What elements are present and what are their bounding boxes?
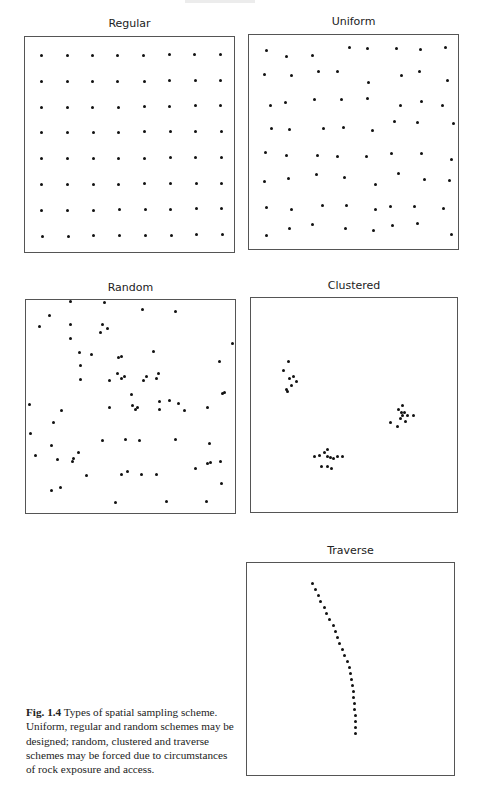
sample-point [174,438,177,441]
sample-point [69,337,72,340]
sample-point [372,229,375,232]
sample-point [311,54,314,57]
figure-caption: Fig. 1.4 Types of spatial sampling schem… [26,705,236,776]
sample-point [71,460,74,463]
sample-point [285,154,288,157]
sample-point [403,411,406,414]
sample-point [316,154,319,157]
sample-point [354,732,357,735]
sample-point [117,131,120,134]
sample-point [290,384,293,387]
sample-point [66,106,69,109]
sample-point [194,467,197,470]
panel-title-traverse: Traverse [246,544,455,557]
sample-point [155,473,158,476]
sample-point [77,451,80,454]
sample-point [319,600,322,603]
sample-point [345,204,348,207]
sample-point [282,369,285,372]
sample-point [418,70,421,73]
sample-point [143,182,146,185]
panel-random [25,299,236,514]
sample-point [183,409,186,412]
sample-point [406,414,409,417]
sample-point [317,594,320,597]
page-header-fragment [185,0,255,3]
sample-point [41,235,44,238]
sample-point [143,157,146,160]
panel-clustered [250,297,458,513]
sample-point [193,53,196,56]
sample-point [66,131,69,134]
sample-point [269,104,272,107]
sample-point [441,104,444,107]
sample-point [141,308,144,311]
sample-point [334,630,337,633]
sample-point [50,444,53,447]
sample-point [219,79,222,82]
sample-point [40,131,43,134]
caption-label: Fig. 1.4 [26,706,61,718]
sample-point [219,104,222,107]
sample-point [450,158,453,161]
sample-point [353,708,356,711]
sample-point [220,156,223,159]
sample-point [195,233,198,236]
sample-point [332,457,335,460]
sample-point [315,173,318,176]
sample-point [79,364,82,367]
sample-point [66,209,69,212]
sample-point [401,414,404,417]
sample-point [287,177,290,180]
sample-point [446,79,449,82]
sample-point [120,473,123,476]
sample-point [106,327,109,330]
sample-point [399,104,402,107]
sample-point [367,81,370,84]
sample-point [168,105,171,108]
sample-point [287,360,290,363]
sample-point [348,666,351,669]
sample-point [343,654,346,657]
sample-point [284,101,287,104]
sample-point [69,323,72,326]
sample-point [90,353,93,356]
sample-point [208,442,211,445]
sample-point [366,97,369,100]
sample-point [169,208,172,211]
sample-point [332,624,335,627]
sample-point [340,98,343,101]
sample-point [220,182,223,185]
sample-point [143,130,146,133]
sample-point [165,500,168,503]
sample-point [91,106,94,109]
sample-point [317,70,320,73]
sample-point [313,455,316,458]
panel-uniform [248,34,459,250]
sample-point [209,461,212,464]
sample-point [60,409,63,412]
sample-point [371,129,374,132]
sample-point [194,104,197,107]
sample-point [365,155,368,158]
sample-point [91,80,94,83]
sample-point [413,205,416,208]
sample-point [206,406,209,409]
sample-point [313,98,316,101]
sample-point [66,54,69,57]
sample-point [174,310,177,313]
sample-point [169,182,172,185]
sample-point [117,106,120,109]
sample-point [131,404,134,407]
sample-point [142,54,145,57]
sample-point [170,234,173,237]
sample-point [420,100,423,103]
sample-point [344,227,347,230]
sample-point [348,46,351,49]
sample-point [341,455,344,458]
panel-title-uniform: Uniform [248,15,459,28]
sample-point [56,458,59,461]
sample-point [416,222,419,225]
sample-point [263,180,266,183]
sample-point [396,425,399,428]
